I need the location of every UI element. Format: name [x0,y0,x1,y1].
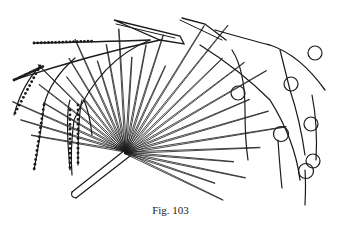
floret [77,123,80,126]
floret [38,131,41,134]
leaf-segment [75,39,126,151]
floret [36,145,39,148]
floret [34,163,37,166]
floret [72,40,75,43]
floret [20,100,23,103]
leaf-segment [67,77,125,152]
floret [28,84,31,87]
leaf-segment [125,127,286,154]
floret [61,41,64,44]
floret [69,123,72,126]
floret [43,41,46,44]
floret [69,133,72,136]
floret [35,154,38,157]
floret [69,152,72,155]
floret [26,88,29,91]
fruit [306,154,320,168]
leaf-segment [126,100,250,154]
floret [37,140,40,143]
floret [77,161,80,164]
leaf-segment [125,62,244,152]
floret [33,167,36,170]
floret [36,149,39,152]
floret [69,113,72,116]
leaf-segment [124,153,222,200]
floret [69,142,72,145]
floret [90,40,93,43]
leaf-segment [125,57,132,152]
leaf-segment [39,85,126,151]
floret [77,128,80,131]
floret [43,104,46,107]
floret [38,135,41,138]
floret [34,72,37,75]
floret [14,112,17,115]
floret [39,126,42,129]
floret [30,80,33,83]
floret [77,147,80,150]
leaf-segment [125,152,215,183]
floret [77,113,80,116]
floret [65,41,68,44]
floret [69,166,72,169]
floret [24,92,27,95]
palm-illustration [0,0,341,229]
floret [42,108,45,111]
floret [77,118,80,121]
floret [51,41,54,44]
floret [32,76,35,79]
floret [77,104,80,107]
floret [76,40,79,43]
floret [69,161,72,164]
leaf-segment [125,99,249,152]
leaf-segment [126,63,244,154]
floret [34,158,37,161]
floret [22,96,25,99]
floret [77,156,80,159]
floret [77,152,80,155]
floret [40,41,43,44]
floret [69,147,72,150]
floret [87,40,90,43]
floret [77,132,80,135]
floret [58,41,61,44]
floret [16,108,19,111]
floret [77,108,80,111]
floret [77,137,80,140]
floret [69,157,72,160]
floret [69,109,72,112]
floret [79,40,82,43]
floret [47,41,50,44]
figure-caption: Fig. 103 [0,204,341,216]
floret [41,113,44,116]
floret [39,65,42,68]
floret [41,117,44,120]
floret [37,69,40,72]
floret [33,42,36,45]
petiole [72,150,131,198]
floret [40,122,43,125]
floret [41,65,44,68]
fruit [308,46,322,60]
floret [69,137,72,140]
floret [18,104,21,107]
floret [54,41,57,44]
floret [77,142,80,145]
floret [69,128,72,131]
floret [83,40,86,43]
floret [36,41,39,44]
floret [69,118,72,121]
fruit [299,164,314,179]
fruit [274,127,289,142]
fruit [231,86,245,100]
fruit [284,77,298,91]
floret [69,40,72,43]
